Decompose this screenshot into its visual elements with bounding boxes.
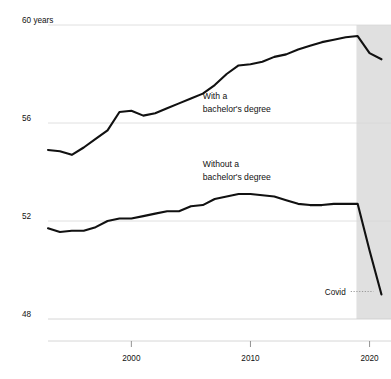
annotation-with-degree-line1: With a <box>203 91 228 101</box>
annotation-with-degree-line2: bachelor's degree <box>203 104 271 114</box>
x-tick-label-2010: 2010 <box>241 354 260 363</box>
x-tick-label-2000: 2000 <box>122 354 141 363</box>
covid-shaded-region <box>356 25 391 319</box>
y-tick-label-48: 48 <box>22 310 32 319</box>
x-tick-label-2020: 2020 <box>360 354 379 363</box>
x-axis-ticks: 2000 2010 2020 <box>122 341 379 363</box>
series-line-without-bachelors-degree <box>48 194 381 294</box>
annotation-without-degree-line2: bachelor's degree <box>203 172 271 182</box>
y-tick-label-60: 60 years <box>22 16 53 25</box>
annotation-without-degree: Without a bachelor's degree <box>203 159 271 182</box>
annotation-with-degree: With a bachelor's degree <box>203 91 271 114</box>
covid-label: Covid <box>325 288 346 297</box>
y-axis-tick-labels: 60 years 56 52 48 <box>22 16 53 319</box>
chart-container: 60 years 56 52 48 2000 2010 2020 With a … <box>0 0 391 379</box>
annotation-without-degree-line1: Without a <box>203 159 240 169</box>
line-chart: 60 years 56 52 48 2000 2010 2020 With a … <box>0 0 391 379</box>
y-tick-label-52: 52 <box>22 212 32 221</box>
y-tick-label-56: 56 <box>22 114 32 123</box>
